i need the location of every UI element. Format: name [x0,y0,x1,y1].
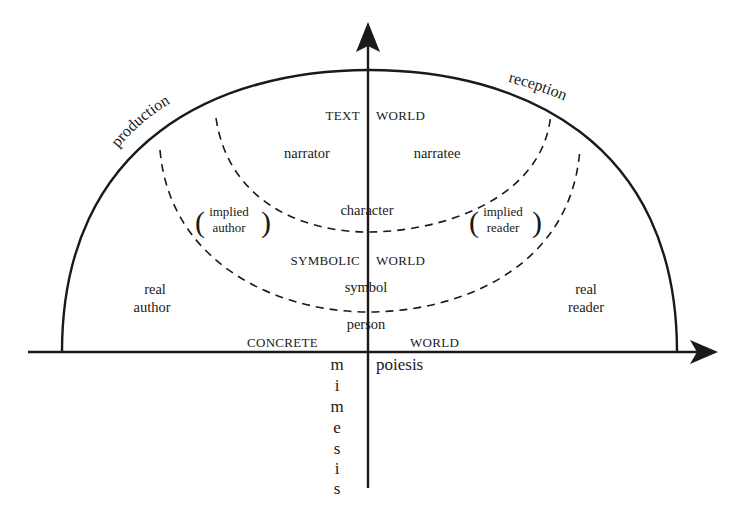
narrator-label: narrator [284,145,330,161]
reception-label: reception [507,68,570,103]
symbol-label: symbol [345,279,388,295]
implied-author-group: ( implied author ) [195,204,271,239]
right-paren-icon: ) [261,205,271,239]
implied-reader-line2: reader [487,220,520,235]
real-author-line2: author [133,299,170,315]
left-paren-icon: ( [195,205,205,239]
text-world-left-label: TEXT [326,108,360,123]
concrete-world-left-label: CONCRETE [247,335,318,350]
left-paren-icon: ( [469,205,479,239]
mimesis-letter: m [330,355,343,374]
implied-reader-group: ( implied reader ) [469,204,542,239]
implied-author-line2: author [212,220,246,235]
poiesis-label: poiesis [376,355,423,374]
mimesis-letter: m [330,397,343,416]
symbolic-world-right-label: WORLD [376,253,425,268]
narratee-label: narratee [414,145,461,161]
person-label: person [347,316,386,332]
mimesis-letter: i [335,459,340,478]
mimesis-letter: i [335,376,340,395]
implied-author-line1: implied [209,204,249,219]
character-label: character [340,202,393,218]
mimesis-letter: s [334,439,341,458]
narrative-communication-diagram: production reception TEXT WORLD narrator… [0,0,737,516]
real-reader-line1: real [575,281,597,297]
mimesis-vertical-label: m i m e s i s [330,355,343,498]
mimesis-letter: e [333,418,341,437]
real-author-line1: real [144,281,166,297]
right-paren-icon: ) [532,205,542,239]
symbolic-world-left-label: SYMBOLIC [290,253,360,268]
real-reader-line2: reader [568,299,604,315]
mimesis-letter: s [334,479,341,498]
text-world-right-label: WORLD [376,108,425,123]
implied-reader-line1: implied [483,204,523,219]
production-label: production [107,91,172,150]
concrete-world-right-label: WORLD [410,335,459,350]
